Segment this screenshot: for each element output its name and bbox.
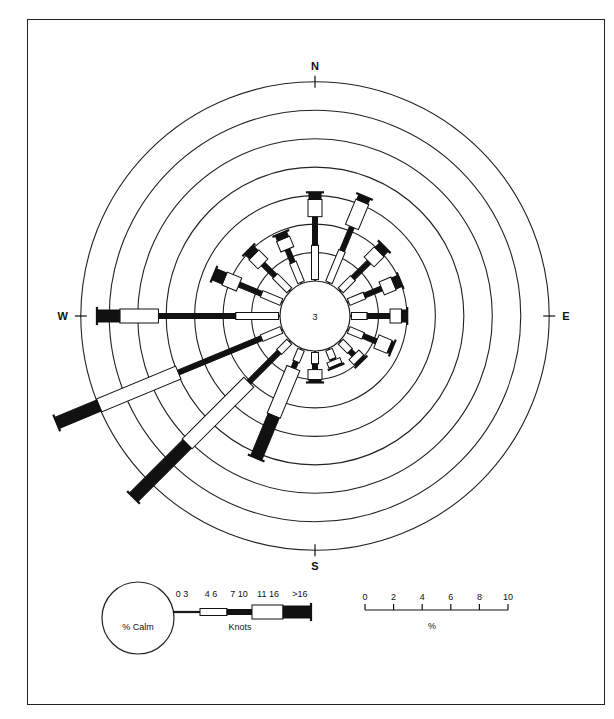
- wind-rose-chart: 3 NSWE % Calm0 34 67 1011 16>16Knots 024…: [0, 0, 614, 719]
- segment-7-10: [177, 336, 262, 375]
- segment-7-10: [158, 314, 235, 319]
- segment-7-10: [238, 282, 262, 296]
- north-label: N: [311, 60, 319, 72]
- calm-circle: 3: [280, 281, 350, 351]
- segment-7-10: [364, 286, 383, 298]
- segment-4-6: [312, 245, 319, 279]
- legend-calm-label: % Calm: [122, 622, 154, 632]
- segment-11-16: [390, 309, 401, 323]
- segment-11-16: [267, 365, 300, 418]
- bar-S: [306, 351, 324, 382]
- scale-tick-label: 6: [448, 592, 453, 602]
- segment-11-16: [308, 199, 322, 216]
- segment-7-10: [261, 262, 277, 278]
- segment-11-16: [120, 309, 159, 323]
- legend-segment-3: [252, 605, 283, 619]
- scale-tick-label: 8: [477, 592, 482, 602]
- legend-units-label: Knots: [228, 622, 252, 632]
- segment-11-16: [308, 370, 322, 380]
- east-label: E: [562, 310, 569, 322]
- segment->16: [54, 400, 101, 429]
- south-label: S: [311, 560, 318, 572]
- bar-W: [97, 307, 280, 325]
- segment-4-6: [273, 274, 292, 293]
- legend-class-label: >16: [292, 589, 307, 599]
- scale-unit-label: %: [428, 621, 436, 631]
- segment-4-6: [260, 291, 282, 306]
- segment-4-6: [290, 261, 305, 283]
- segment-11-16: [345, 199, 368, 229]
- segment-4-6: [351, 313, 367, 320]
- west-label: W: [57, 310, 68, 322]
- direction-bars: [53, 192, 407, 504]
- legend-segment-4: [283, 606, 311, 618]
- scale-tick-label: 2: [391, 592, 396, 602]
- speed-legend: % Calm0 34 67 1011 16>16Knots: [102, 582, 311, 654]
- segment-7-10: [351, 260, 371, 280]
- segment-7-10: [247, 350, 281, 384]
- legend-class-label: 4 6: [205, 589, 218, 599]
- bar-NNE: [320, 193, 373, 287]
- scale-tick-label: 0: [362, 592, 367, 602]
- segment-7-10: [367, 314, 390, 319]
- calm-value: 3: [312, 312, 317, 322]
- segment-4-6: [236, 313, 279, 320]
- legend-class-label: 7 10: [230, 589, 248, 599]
- legend-class-label: 11 16: [257, 589, 279, 599]
- legend-class-label: 0 3: [176, 589, 189, 599]
- percent-scale-bar: 0246810%: [362, 592, 513, 631]
- segment-11-16: [96, 366, 181, 412]
- segment-7-10: [313, 217, 318, 246]
- segment->16: [97, 310, 120, 322]
- segment-4-6: [347, 292, 366, 305]
- legend-calm-circle: [102, 582, 174, 654]
- segment-4-6: [347, 327, 364, 339]
- legend-segment-0: [174, 611, 200, 612]
- segment-4-6: [312, 352, 319, 363]
- legend-segment-1: [200, 609, 227, 616]
- scale-tick-label: 4: [420, 592, 425, 602]
- segment-4-6: [260, 327, 282, 342]
- scale-tick-label: 10: [503, 592, 513, 602]
- legend-segment-2: [227, 610, 252, 615]
- bar-N: [306, 192, 324, 281]
- segment-7-10: [313, 364, 318, 370]
- bar-SSW: [248, 345, 310, 462]
